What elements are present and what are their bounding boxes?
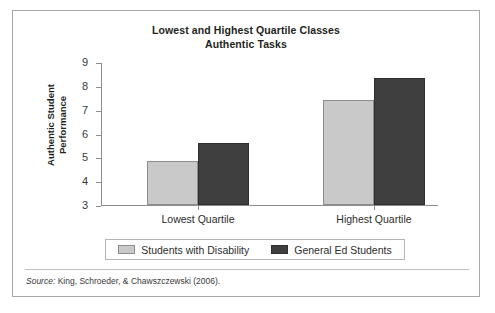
chart-legend: Students with Disability General Ed Stud… [105, 239, 405, 260]
y-tick-label-3: 3 [82, 199, 88, 211]
chart-title-line-1: Lowest and Highest Quartile Classes [13, 24, 479, 38]
y-tick-8: 8 [96, 87, 101, 88]
plot-area: 9876543 Lowest QuartileHighest Quartile [101, 63, 438, 206]
y-tick-label-5: 5 [82, 151, 88, 163]
source-label: Source: [26, 276, 55, 286]
chart-title-line-2: Authentic Tasks [13, 38, 479, 52]
bar-highest-quartile-students-with-disability [323, 100, 374, 205]
x-label-highest-quartile: Highest Quartile [314, 213, 434, 225]
y-tick-6: 6 [96, 135, 101, 136]
source-citation: King, Schroeder, & Chawszczewski (2006). [55, 276, 220, 286]
y-tick-label-8: 8 [82, 80, 88, 92]
legend-label-general-ed-students: General Ed Students [294, 244, 391, 256]
bar-lowest-quartile-students-with-disability [147, 161, 198, 205]
figure-frame: Lowest and Highest Quartile Classes Auth… [12, 10, 480, 297]
y-tick-label-4: 4 [82, 175, 88, 187]
y-tick-label-6: 6 [82, 128, 88, 140]
y-tick-label-9: 9 [82, 56, 88, 68]
y-axis-line [101, 63, 102, 206]
bar-lowest-quartile-general-ed-students [198, 143, 249, 205]
y-axis-title: Authentic Student Performance [45, 70, 69, 180]
source-divider [25, 269, 469, 270]
legend-label-students-with-disability: Students with Disability [141, 244, 249, 256]
x-label-lowest-quartile: Lowest Quartile [138, 213, 258, 225]
bar-highest-quartile-general-ed-students [374, 78, 425, 206]
y-tick-9: 9 [96, 63, 101, 64]
legend-swatch-light-icon [118, 245, 135, 254]
y-tick-label-7: 7 [82, 104, 88, 116]
legend-swatch-dark-icon [271, 245, 288, 254]
x-axis-line [101, 205, 438, 206]
y-tick-3: 3 [96, 206, 101, 207]
legend-item-general-ed-students: General Ed Students [271, 244, 391, 256]
y-axis-title-line-1: Authentic Student [45, 70, 57, 180]
x-tick-lowest-quartile [198, 206, 199, 210]
legend-item-students-with-disability: Students with Disability [118, 244, 249, 256]
chart-title: Lowest and Highest Quartile Classes Auth… [13, 24, 479, 51]
y-axis-title-line-2: Performance [57, 70, 69, 180]
x-tick-highest-quartile [374, 206, 375, 210]
y-tick-7: 7 [96, 111, 101, 112]
y-tick-4: 4 [96, 182, 101, 183]
y-tick-5: 5 [96, 158, 101, 159]
source-note: Source: King, Schroeder, & Chawszczewski… [26, 276, 220, 286]
